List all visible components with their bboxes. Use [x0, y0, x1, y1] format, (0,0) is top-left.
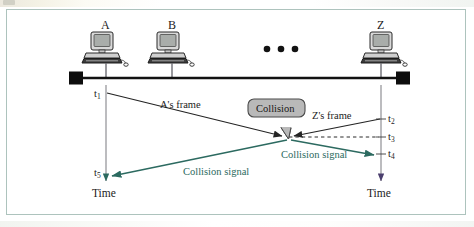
z-frame-arrow — [294, 119, 380, 136]
time-mark-t2: t2 — [388, 114, 395, 125]
desktop-computer-icon-a — [82, 32, 128, 66]
station-label-z: Z — [377, 19, 384, 31]
time-mark-t4: t4 — [388, 149, 395, 160]
collision-signal-label-left: Collision signal — [183, 167, 249, 178]
station-label-a: A — [101, 19, 110, 31]
bus-terminator-right — [396, 72, 410, 85]
time-mark-t2-sub: 2 — [391, 117, 395, 126]
z-frame-label: Z's frame — [312, 111, 352, 122]
station-label-b: B — [168, 19, 176, 31]
ellipsis-dots-icon — [264, 46, 299, 53]
desktop-computer-icon-b — [148, 32, 194, 66]
time-mark-t4-sub: 4 — [391, 152, 395, 161]
collision-signal-label-right: Collision signal — [281, 150, 347, 161]
time-mark-t5-sub: 5 — [97, 171, 101, 180]
diagram-page: A B Z Collision A's frame Z's frame Coll… — [0, 0, 474, 227]
diagram-canvas — [0, 0, 474, 227]
time-mark-t3: t3 — [388, 132, 395, 143]
time-mark-t5: t5 — [94, 168, 101, 179]
collision-callout-label: Collision — [256, 103, 295, 114]
bus-terminator-left — [69, 72, 83, 85]
time-axis-label-right: Time — [367, 188, 391, 200]
time-mark-t3-sub: 3 — [391, 135, 395, 144]
time-mark-t1: t1 — [94, 89, 101, 100]
desktop-computer-icon-z — [361, 32, 407, 66]
time-axis-label-left: Time — [92, 188, 116, 200]
a-frame-label: A's frame — [160, 100, 201, 111]
time-mark-t1-sub: 1 — [97, 92, 101, 101]
